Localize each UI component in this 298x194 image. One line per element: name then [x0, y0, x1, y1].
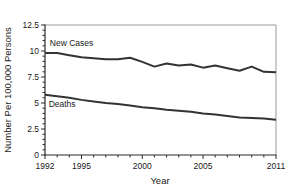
- y-tick-label: 2.5: [27, 124, 39, 134]
- x-tick-label: 2011: [267, 161, 286, 171]
- y-tick-label: 0: [34, 150, 39, 160]
- x-tick-label: 2000: [133, 161, 152, 171]
- x-tick-label: 2005: [194, 161, 213, 171]
- y-tick-label: 5: [34, 98, 39, 108]
- y-tick-label: 10: [30, 46, 40, 56]
- x-tick-label: 1992: [36, 161, 55, 171]
- y-tick-label: 7.5: [27, 72, 39, 82]
- y-tick-label: 12.5: [22, 20, 39, 30]
- line-chart: 02.557.51012.5 19921995200020052011 New …: [0, 0, 298, 194]
- x-tick-label: 1995: [72, 161, 91, 171]
- x-axis-title: Year: [150, 175, 169, 186]
- annotation-new-cases: New Cases: [50, 38, 93, 48]
- y-axis-title: Number Per 100,000 Persons: [2, 27, 13, 153]
- annotation-deaths: Deaths: [49, 99, 76, 109]
- chart-figure: 02.557.51012.5 19921995200020052011 New …: [0, 0, 298, 194]
